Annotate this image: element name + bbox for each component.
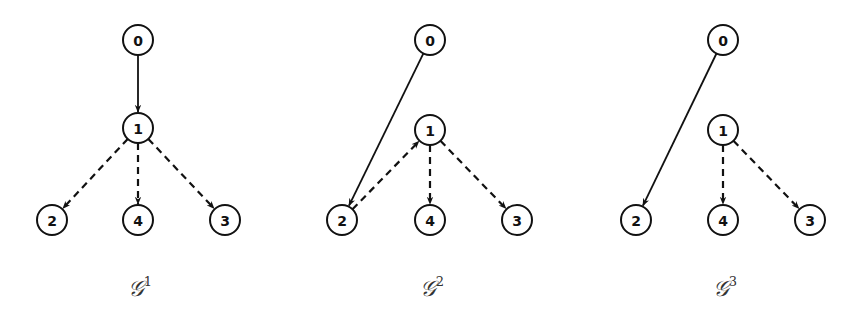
node-label: 0 (425, 33, 435, 49)
node-label: 4 (133, 213, 143, 229)
edge-g2-1-to-3 (440, 141, 505, 209)
graph-label-g2: 𝒢2 (392, 276, 472, 301)
node-g2-1: 1 (415, 115, 445, 145)
node-label: 3 (512, 213, 522, 229)
graph-label-g1: 𝒢1 (100, 276, 180, 301)
edge-g1-1-to-3 (148, 139, 214, 208)
node-label: 1 (425, 123, 435, 139)
graph-label-g3: 𝒢3 (685, 276, 765, 301)
node-label: 0 (133, 33, 143, 49)
node-label: 0 (718, 33, 728, 49)
graph-label-superscript: 3 (729, 274, 737, 289)
figure-stage: 012430124301243 𝒢1 𝒢2 𝒢3 (0, 0, 868, 320)
nodes-layer: 012430124301243 (37, 25, 825, 235)
node-g3-3: 3 (795, 205, 825, 235)
graph-label-base: 𝒢 (713, 276, 729, 301)
node-g1-0: 0 (123, 25, 153, 55)
node-label: 1 (718, 123, 728, 139)
node-label: 1 (133, 121, 143, 137)
node-label: 4 (718, 213, 728, 229)
graph-label-superscript: 2 (436, 274, 444, 289)
node-label: 2 (337, 213, 347, 229)
node-label: 3 (805, 213, 815, 229)
node-label: 2 (47, 213, 57, 229)
node-g1-2: 2 (37, 205, 67, 235)
node-g1-3: 3 (210, 205, 240, 235)
node-g2-2: 2 (327, 205, 357, 235)
node-g3-2: 2 (621, 205, 651, 235)
edge-g1-1-to-2 (63, 139, 128, 208)
node-label: 2 (631, 213, 641, 229)
node-g3-0: 0 (708, 25, 738, 55)
node-g2-0: 0 (415, 25, 445, 55)
graph-label-base: 𝒢 (128, 276, 144, 301)
graph-diagram: 012430124301243 (0, 0, 868, 320)
graph-label-base: 𝒢 (420, 276, 436, 301)
node-label: 3 (220, 213, 230, 229)
edge-g2-0-to-2 (349, 53, 423, 205)
edge-g3-0-to-2 (643, 54, 717, 206)
node-g3-1: 1 (708, 115, 738, 145)
node-g2-4: 4 (415, 205, 445, 235)
node-g3-4: 4 (708, 205, 738, 235)
edge-g3-1-to-3 (733, 141, 798, 209)
edge-g2-2-to-1 (352, 141, 418, 209)
node-g1-4: 4 (123, 205, 153, 235)
node-g1-1: 1 (123, 113, 153, 143)
node-g2-3: 3 (502, 205, 532, 235)
node-label: 4 (425, 213, 435, 229)
graph-label-superscript: 1 (144, 274, 152, 289)
